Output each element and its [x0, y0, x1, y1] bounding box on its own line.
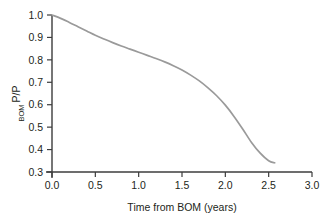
x-axis-ticks — [52, 172, 312, 177]
x-tick-label: 3.0 — [305, 179, 320, 191]
y-tick-label: 0.3 — [28, 166, 43, 178]
chart-figure: 0.00.51.01.52.02.53.0 0.30.40.50.60.70.8… — [0, 0, 336, 218]
y-axis-title-subscript: BOM — [17, 104, 26, 121]
x-tick-label: 0.0 — [45, 179, 60, 191]
y-tick-label: 0.8 — [28, 54, 43, 66]
line-chart: 0.00.51.01.52.02.53.0 0.30.40.50.60.70.8… — [0, 0, 336, 218]
x-tick-label: 0.5 — [88, 179, 103, 191]
series-line — [52, 15, 275, 163]
y-tick-label: 0.7 — [28, 76, 43, 88]
x-tick-label: 1.0 — [131, 179, 146, 191]
axes — [46, 15, 312, 178]
y-tick-label: 0.9 — [28, 31, 43, 43]
y-axis-tick-labels: 0.30.40.50.60.70.80.91.0 — [28, 9, 43, 178]
y-axis-ticks — [47, 15, 52, 172]
y-tick-label: 0.5 — [28, 121, 43, 133]
data-series — [52, 15, 275, 163]
y-axis-title-group: P/P BOM — [10, 86, 26, 122]
y-tick-label: 0.4 — [28, 143, 43, 155]
y-tick-label: 1.0 — [28, 9, 43, 21]
x-axis-tick-labels: 0.00.51.01.52.02.53.0 — [45, 179, 320, 191]
y-tick-label: 0.6 — [28, 98, 43, 110]
x-tick-label: 2.5 — [261, 179, 276, 191]
x-tick-label: 2.0 — [218, 179, 233, 191]
x-axis-title: Time from BOM (years) — [127, 201, 236, 213]
x-tick-label: 1.5 — [175, 179, 190, 191]
y-axis-title-main: P/P — [10, 86, 22, 103]
